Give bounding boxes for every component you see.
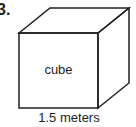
edge-dimension-label: 1.5 meters (19, 110, 119, 125)
cube-face-label: cube (0, 62, 117, 77)
problem-number: 3. (0, 1, 10, 19)
cube-figure-container: 3. cube 1.5 meters (0, 0, 136, 127)
